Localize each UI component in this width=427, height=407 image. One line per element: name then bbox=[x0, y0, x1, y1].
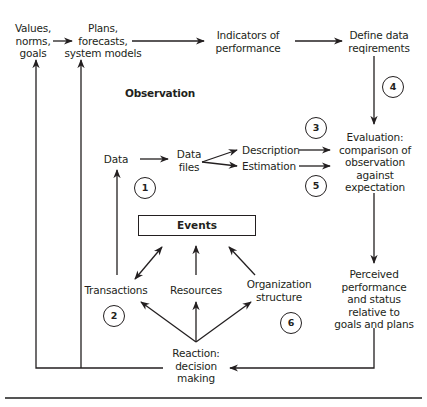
node-resources: Resources bbox=[170, 284, 222, 297]
node-indicators: Indicators of performance bbox=[215, 29, 280, 54]
diagram-connectors bbox=[0, 0, 427, 407]
step-marker-5: 5 bbox=[305, 175, 327, 197]
node-description: Description bbox=[242, 144, 300, 157]
step-marker-3: 3 bbox=[305, 117, 327, 139]
step-marker-2: 2 bbox=[103, 305, 125, 327]
node-org-structure: Organization structure bbox=[247, 278, 312, 303]
node-plans: Plans, forecasts, system models bbox=[65, 22, 142, 60]
node-data: Data bbox=[104, 153, 128, 166]
node-perceived: Perceived performance and status relativ… bbox=[334, 268, 413, 331]
bottom-divider bbox=[5, 397, 422, 399]
step-marker-6: 6 bbox=[280, 312, 302, 334]
step-marker-1: 1 bbox=[134, 177, 156, 199]
node-reaction: Reaction: decision making bbox=[172, 347, 219, 385]
step-marker-4: 4 bbox=[382, 76, 404, 98]
node-evaluation: Evaluation: comparison of observation ag… bbox=[339, 131, 411, 194]
node-data-files: Data files bbox=[177, 148, 201, 173]
node-transactions: Transactions bbox=[84, 284, 147, 297]
node-estimation: Estimation bbox=[242, 160, 296, 173]
node-events: Events bbox=[138, 215, 256, 236]
node-define-data: Define data reqirements bbox=[348, 29, 409, 54]
section-label-observation: Observation bbox=[125, 87, 195, 100]
node-values: Values, norms, goals bbox=[15, 22, 51, 60]
